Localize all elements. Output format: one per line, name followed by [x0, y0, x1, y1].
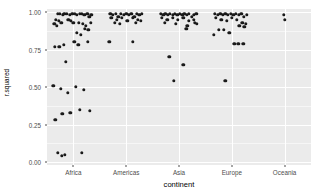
data-point	[61, 112, 64, 115]
data-point	[120, 16, 123, 19]
data-point	[77, 21, 80, 24]
data-point	[171, 16, 174, 19]
data-point	[66, 91, 69, 94]
data-point	[62, 43, 65, 46]
gridline-major-x	[179, 9, 180, 165]
data-point	[245, 13, 248, 16]
data-point	[110, 16, 113, 19]
x-tick-label-oceania: Oceania	[273, 169, 296, 176]
data-point	[182, 16, 185, 19]
data-point	[225, 19, 228, 22]
data-point	[53, 45, 56, 48]
data-point	[185, 27, 188, 30]
data-point	[118, 22, 121, 25]
data-point	[88, 109, 91, 112]
data-point	[187, 19, 190, 22]
data-point	[60, 154, 63, 157]
x-axis-title: continent	[47, 180, 311, 189]
x-tick-label-asia: Asia	[173, 169, 185, 176]
gridline-major-x	[126, 9, 127, 165]
data-point	[160, 16, 163, 19]
x-tick-label-group: AfricaAmericasAsiaEuropeOceania	[47, 169, 311, 180]
y-tick-label: 0.75	[14, 46, 41, 53]
x-axis-title-label: continent	[164, 180, 195, 189]
data-point	[140, 12, 143, 15]
data-point	[174, 22, 177, 25]
data-point	[230, 16, 233, 19]
data-point	[139, 19, 142, 22]
data-point	[243, 25, 246, 28]
y-axis-title: r.squared	[0, 0, 14, 165]
data-point	[74, 85, 77, 88]
data-point	[134, 21, 137, 24]
data-point	[172, 79, 175, 82]
data-point	[235, 18, 238, 21]
data-point	[236, 42, 239, 45]
data-point	[283, 18, 286, 21]
x-tick-mark	[73, 165, 74, 167]
data-point	[75, 31, 78, 34]
data-point	[79, 33, 82, 36]
y-tick-label: 0.25	[14, 121, 41, 128]
data-point	[57, 45, 60, 48]
data-point	[108, 40, 111, 43]
data-point	[214, 16, 217, 19]
data-point	[63, 153, 66, 156]
data-point	[64, 60, 67, 63]
data-point	[242, 42, 245, 45]
data-point	[60, 21, 63, 24]
y-axis-title-label: r.squared	[4, 69, 11, 97]
data-point	[131, 40, 134, 43]
data-point	[82, 88, 85, 91]
x-tick-mark	[126, 165, 127, 167]
x-tick-label-africa: Africa	[65, 169, 81, 176]
data-point	[212, 33, 215, 36]
x-tick-mark	[231, 165, 232, 167]
x-tick-label-europe: Europe	[222, 169, 242, 176]
data-point	[237, 24, 240, 27]
scatter-plot-figure: r.squared 0.000.250.500.751.00 AfricaAme…	[0, 0, 318, 196]
data-point	[126, 19, 129, 22]
data-point	[227, 31, 230, 34]
x-tick-mark	[179, 165, 180, 167]
y-tick-label: 1.00	[14, 9, 41, 16]
y-tick-label: 0.00	[14, 159, 41, 166]
gridline-major-x	[232, 9, 233, 165]
data-point	[168, 55, 171, 58]
data-point	[72, 21, 75, 24]
data-point	[78, 108, 81, 111]
data-point	[80, 151, 83, 154]
x-tick-mark	[284, 165, 285, 167]
data-point	[182, 63, 185, 66]
y-tick-label-group: 0.000.250.500.751.00	[14, 0, 41, 196]
data-point	[59, 87, 62, 90]
y-tick-label: 0.50	[14, 84, 41, 91]
data-point	[195, 22, 198, 25]
data-point	[55, 24, 58, 27]
data-point	[163, 21, 166, 24]
data-point	[90, 13, 93, 16]
data-point	[69, 111, 72, 114]
data-point	[195, 12, 198, 15]
data-point	[113, 21, 116, 24]
plot-panel	[47, 9, 311, 165]
data-point	[86, 40, 89, 43]
gridline-major-x	[285, 9, 286, 165]
x-tick-label-americas: Americas	[113, 169, 139, 176]
data-point	[131, 16, 134, 19]
data-point	[220, 18, 223, 21]
data-point	[89, 21, 92, 24]
data-point	[54, 118, 57, 121]
data-point	[224, 79, 227, 82]
data-point	[166, 18, 169, 21]
data-point	[76, 43, 79, 46]
